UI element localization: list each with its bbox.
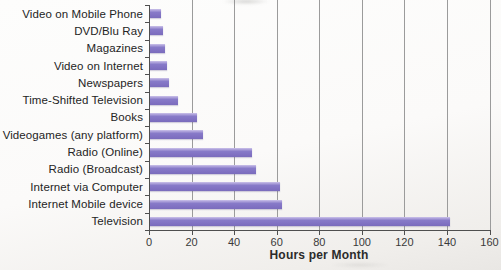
y-axis-tick xyxy=(145,92,149,93)
category-label: Internet via Computer xyxy=(0,178,143,195)
x-tick-label-100: 100 xyxy=(353,236,371,248)
y-axis-tick xyxy=(145,40,149,41)
category-label: Time-Shifted Television xyxy=(0,92,143,109)
category-label: Magazines xyxy=(0,40,143,57)
y-axis-tick xyxy=(145,178,149,179)
y-axis-tick xyxy=(145,109,149,110)
x-axis-tick xyxy=(234,231,235,235)
x-axis-tick xyxy=(404,231,405,235)
y-axis-tick xyxy=(145,143,149,144)
bar-radio-broadcast- xyxy=(150,165,256,174)
x-tick-label-60: 60 xyxy=(271,236,283,248)
bar-time-shifted-television xyxy=(150,96,178,105)
gridline-100 xyxy=(362,0,363,230)
y-axis-tick xyxy=(145,213,149,214)
bar-internet-mobile-device xyxy=(150,200,282,209)
bar-dvd-blu-ray xyxy=(150,26,163,35)
bar-video-on-mobile-phone xyxy=(150,9,161,18)
y-axis-tick xyxy=(145,74,149,75)
x-tick-label-40: 40 xyxy=(228,236,240,248)
x-axis-tick xyxy=(447,231,448,235)
y-axis-tick xyxy=(145,161,149,162)
x-tick-label-160: 160 xyxy=(480,236,498,248)
bar-magazines xyxy=(150,44,165,53)
y-axis-tick xyxy=(145,195,149,196)
y-axis-line xyxy=(149,5,150,231)
category-label: Radio (Broadcast) xyxy=(0,161,143,178)
x-axis-tick xyxy=(319,231,320,235)
y-axis-tick xyxy=(145,5,149,6)
category-label: Radio (Online) xyxy=(0,143,143,160)
bar-video-on-internet xyxy=(150,61,167,70)
media-hours-bar-chart: Video on Mobile PhoneDVD/Blu RayMagazine… xyxy=(0,0,501,270)
bar-newspapers xyxy=(150,78,169,87)
category-label: Internet Mobile device xyxy=(0,195,143,212)
x-axis-tick xyxy=(149,231,150,235)
x-axis-tick xyxy=(362,231,363,235)
y-axis-tick xyxy=(145,126,149,127)
bar-videogames-any-platform- xyxy=(150,130,203,139)
bar-television xyxy=(150,217,450,226)
gridline-60 xyxy=(277,0,278,230)
gridline-80 xyxy=(319,0,320,230)
x-tick-label-140: 140 xyxy=(438,236,456,248)
category-label: Videogames (any platform) xyxy=(0,126,143,143)
gridline-160 xyxy=(490,0,491,230)
category-label: Video on Mobile Phone xyxy=(0,5,143,22)
x-axis-tick xyxy=(277,231,278,235)
y-axis-tick xyxy=(145,57,149,58)
category-label: Newspapers xyxy=(0,74,143,91)
x-tick-label-20: 20 xyxy=(185,236,197,248)
category-label: Television xyxy=(0,213,143,230)
x-tick-label-80: 80 xyxy=(313,236,325,248)
x-axis-tick xyxy=(192,231,193,235)
bar-radio-online- xyxy=(150,148,252,157)
category-label: DVD/Blu Ray xyxy=(0,22,143,39)
bar-books xyxy=(150,113,197,122)
gridline-140 xyxy=(447,0,448,230)
x-tick-label-0: 0 xyxy=(146,236,152,248)
x-axis-tick xyxy=(490,231,491,235)
x-axis-title: Hours per Month xyxy=(270,248,369,262)
plot-area: Video on Mobile PhoneDVD/Blu RayMagazine… xyxy=(0,0,501,270)
x-tick-label-120: 120 xyxy=(395,236,413,248)
category-label: Video on Internet xyxy=(0,57,143,74)
gridline-120 xyxy=(404,0,405,230)
gridline-40 xyxy=(234,0,235,230)
bar-internet-via-computer xyxy=(150,182,280,191)
y-axis-tick xyxy=(145,22,149,23)
category-label: Books xyxy=(0,109,143,126)
